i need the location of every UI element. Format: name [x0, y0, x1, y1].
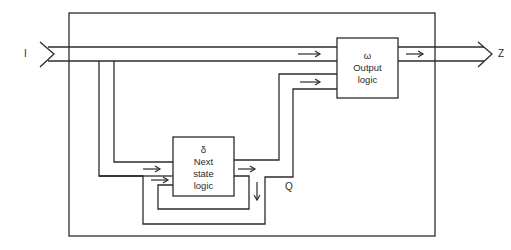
next-state-line3: logic [173, 180, 234, 192]
input-chevron-icon [40, 42, 54, 67]
next-state-output-arrow-icon [238, 166, 255, 172]
output-chevron-icon [478, 42, 492, 67]
output-logic-line1: Output [337, 62, 398, 74]
feedback-down-arrow-icon [254, 182, 260, 200]
omega-symbol: ω [337, 50, 398, 62]
output-bus-arrow-icon [406, 51, 423, 57]
state-signal-label: Q [285, 181, 293, 192]
state-bus-line-a [234, 74, 337, 160]
input-signal-label: I [24, 48, 27, 59]
branch-arrow-icon [143, 166, 160, 172]
sequential-machine-diagram [0, 0, 511, 250]
next-state-line2: state [173, 168, 234, 180]
next-state-line1: Next [173, 156, 234, 168]
delta-symbol: δ [173, 144, 234, 156]
output-logic-label: ω Output logic [337, 50, 398, 86]
output-logic-line2: logic [337, 74, 398, 86]
next-state-logic-label: δ Next state logic [173, 144, 234, 192]
state-bus-arrow-icon [300, 79, 320, 85]
output-signal-label: Z [498, 48, 504, 59]
input-bus-arrow-icon [298, 51, 320, 57]
branch-inner [114, 61, 173, 162]
feedback-arrow-icon [151, 177, 168, 183]
branch-outer [99, 61, 143, 176]
